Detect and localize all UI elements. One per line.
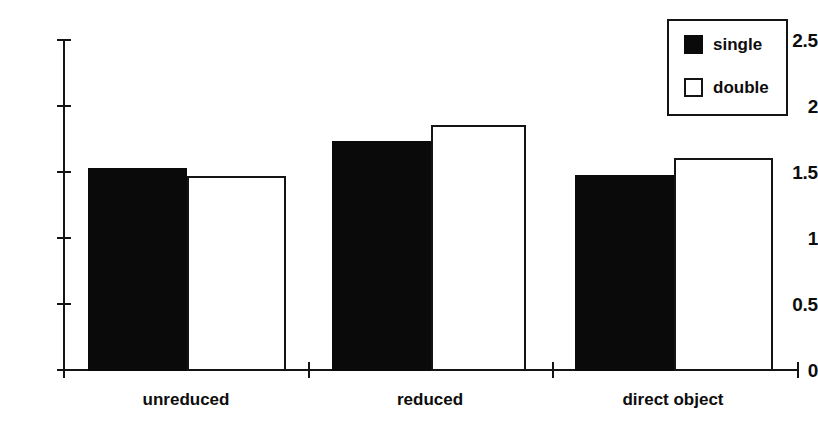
y-axis-tick-label-0-5: 0.5 (766, 295, 818, 314)
y-axis-tick (57, 39, 71, 41)
x-axis-category-label-reduced: reduced (397, 391, 463, 408)
x-axis-category-label-direct-object: direct object (622, 391, 723, 408)
bar-unreduced-single (88, 168, 187, 371)
x-axis-tick-group2 (552, 362, 554, 378)
legend-box: single double (667, 19, 788, 116)
bar-chart-figure: 2.5 2 1.5 1 0.5 0 unreduced reduced dire… (0, 0, 818, 426)
x-axis-tick-group1 (308, 362, 310, 378)
y-axis-tick-label-1: 1 (766, 229, 818, 248)
y-axis-tick (57, 105, 71, 107)
y-axis-tick-label-1-5: 1.5 (766, 163, 818, 182)
y-axis-line (63, 39, 65, 371)
y-axis-tick (57, 171, 71, 173)
filled-square-swatch-icon (684, 35, 703, 54)
y-axis-tick (57, 303, 71, 305)
legend-entry-single: single (684, 35, 762, 54)
x-axis-category-label-unreduced: unreduced (143, 391, 230, 408)
legend-entry-double: double (684, 78, 769, 97)
bar-reduced-single (332, 141, 431, 371)
bar-direct-object-double (674, 158, 773, 371)
x-axis-tick-end (797, 362, 799, 378)
y-axis-tick (57, 237, 71, 239)
bar-unreduced-double (187, 176, 286, 371)
bar-reduced-double (431, 125, 526, 371)
bar-direct-object-single (575, 175, 674, 371)
legend-label-single: single (713, 36, 762, 53)
hollow-square-swatch-icon (684, 78, 703, 97)
x-axis-tick-start (63, 362, 65, 378)
legend-label-double: double (713, 79, 769, 96)
